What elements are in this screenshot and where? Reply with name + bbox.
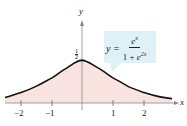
x-tick-label-m1: −1 <box>45 108 55 118</box>
x-tick-label-m2: −2 <box>14 108 24 118</box>
area-fill <box>5 60 172 103</box>
x-tick-label-1: 1 <box>111 108 116 118</box>
x-tick-label-2: 2 <box>142 108 147 118</box>
y-axis-arrow-icon <box>80 20 84 26</box>
chart-plot <box>0 0 187 126</box>
x-axis-label: x <box>180 97 184 107</box>
equation-denominator: 1 + e2x <box>123 48 147 63</box>
y-tick-label-half: 1 2 <box>75 49 78 60</box>
y-axis-label: y <box>79 6 83 16</box>
x-axis-arrow-icon <box>174 101 179 105</box>
equation-numerator: ex <box>129 33 140 48</box>
equation-lhs: y = <box>106 43 120 54</box>
equation-label: y = ex 1 + e2x <box>106 33 146 63</box>
callout-pointer <box>110 62 122 72</box>
equation-fraction: ex 1 + e2x <box>123 33 147 63</box>
